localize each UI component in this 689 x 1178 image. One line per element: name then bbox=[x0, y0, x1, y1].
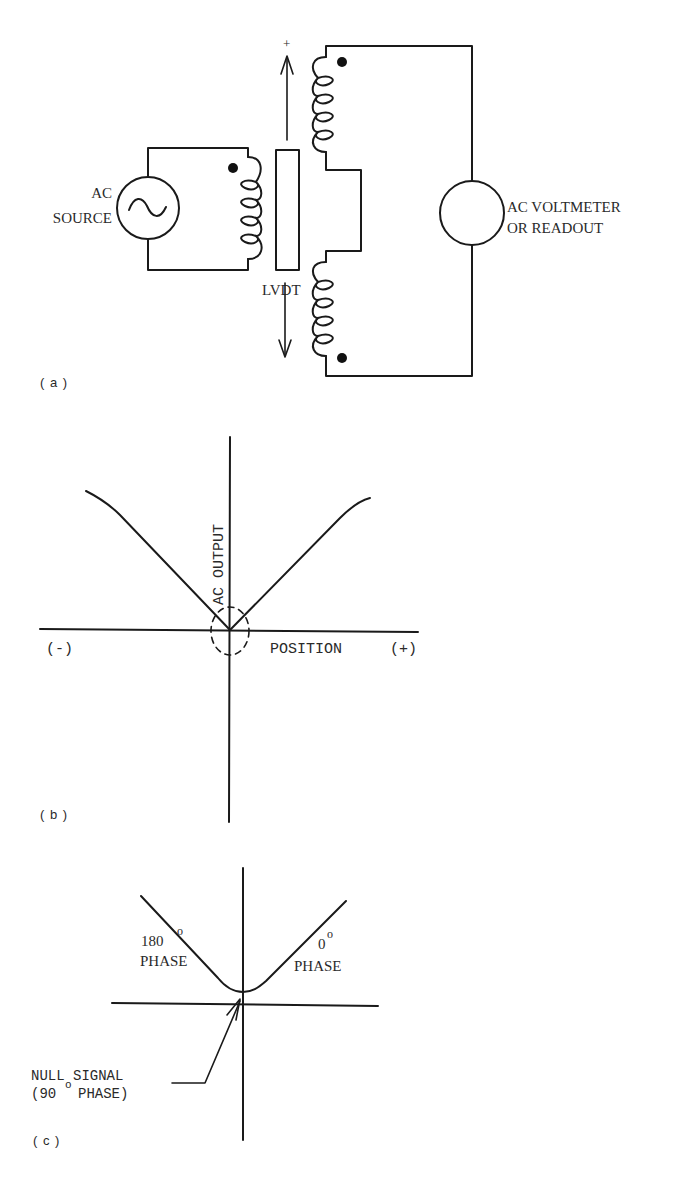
up-arrow-icon bbox=[281, 56, 293, 140]
secondary-top-coil-icon bbox=[313, 57, 333, 152]
right-phase-number: 0 bbox=[318, 936, 326, 952]
neg-label: (-) bbox=[46, 641, 73, 658]
primary-coil-icon bbox=[241, 157, 261, 259]
voltmeter-label-1: AC VOLTMETER bbox=[507, 199, 621, 215]
primary-polarity-dot bbox=[228, 163, 238, 173]
null-degree: o bbox=[65, 1079, 72, 1091]
plus-label: + bbox=[283, 36, 290, 51]
panel-a-label: ( a ) bbox=[40, 375, 68, 390]
secondary-wire-bottom bbox=[326, 245, 472, 376]
lvdt-label: LVDT bbox=[262, 282, 301, 298]
lvdt-core bbox=[276, 150, 299, 270]
secondary-bottom-polarity-dot bbox=[337, 353, 347, 363]
panel-c-phase-chart: 180 o PHASE 0 o PHASE NULL SIGNAL (90 o … bbox=[31, 868, 378, 1148]
pos-label: (+) bbox=[390, 641, 417, 658]
ac-sine-source-icon bbox=[117, 177, 179, 239]
panel-a-lvdt-circuit: AC SOURCE LVDT + bbox=[40, 36, 621, 390]
null-signal-arrow-icon bbox=[172, 999, 240, 1083]
null-signal-label-2b: PHASE) bbox=[78, 1086, 128, 1102]
secondary-top-polarity-dot bbox=[337, 57, 347, 67]
left-phase-word: PHASE bbox=[140, 953, 188, 969]
primary-wire-bottom bbox=[148, 239, 248, 270]
panel-c-label: ( c ) bbox=[33, 1133, 60, 1148]
null-signal-label-1: NULL SIGNAL bbox=[31, 1068, 123, 1084]
secondary-wire-top bbox=[326, 46, 472, 181]
x-axis-label: POSITION bbox=[270, 641, 342, 658]
secondary-bottom-coil-icon bbox=[313, 262, 333, 356]
center-tap-wire bbox=[326, 152, 361, 262]
voltmeter-label-2: OR READOUT bbox=[507, 220, 603, 236]
panel-b-output-chart: AC OUTPUT (-) POSITION (+) ( b ) bbox=[40, 437, 418, 822]
panel-b-label: ( b ) bbox=[40, 807, 68, 822]
ac-source-label-2: SOURCE bbox=[53, 210, 112, 226]
x-axis bbox=[112, 1003, 378, 1006]
left-degree: o bbox=[177, 924, 183, 938]
y-axis-label: AC OUTPUT bbox=[211, 524, 228, 605]
right-phase-word: PHASE bbox=[294, 958, 342, 974]
right-degree: o bbox=[327, 927, 333, 941]
voltmeter-circle-icon bbox=[440, 181, 504, 245]
null-signal-label-2a: (90 bbox=[31, 1086, 56, 1102]
left-phase-number: 180 bbox=[141, 933, 164, 949]
v-output-curve bbox=[86, 491, 370, 630]
ac-source-label-1: AC bbox=[91, 185, 112, 201]
lvdt-figure: AC SOURCE LVDT + bbox=[0, 0, 689, 1178]
